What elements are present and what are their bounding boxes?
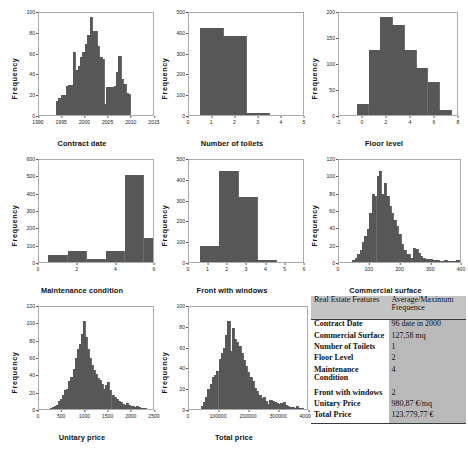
y-tick-label: 500: [177, 9, 186, 15]
x-tick-label: 4: [279, 119, 282, 125]
bars-container: [189, 13, 303, 115]
x-tick-label: 2: [233, 119, 236, 125]
x-tick-label: 3: [256, 119, 259, 125]
y-tick-label: 80: [329, 191, 335, 197]
header-value-cell: Average/Maximum Frequence: [389, 296, 467, 319]
x-axis-ticks: 0100200300400: [338, 263, 461, 275]
y-axis-ticks: 050100150200: [322, 12, 338, 116]
y-tick-label: 100: [177, 303, 186, 309]
plot-frame: [38, 306, 154, 410]
x-tick-label: 2: [225, 266, 228, 272]
chart-cell-maintenance-condition: Frequency 0100200300400500600 0246 Maint…: [8, 155, 156, 295]
histogram-bar: [48, 255, 68, 262]
y-axis-label: Frequency: [8, 155, 22, 295]
plot-frame: [338, 159, 461, 263]
chart-cell-total-price: Frequency 020406080100 01000002000003000…: [158, 302, 310, 442]
x-axis-label: Maintenance condition: [8, 286, 156, 295]
y-tick-label: 80: [29, 338, 35, 344]
y-tick-label: 0: [182, 260, 185, 266]
y-tick-label: 100: [177, 239, 186, 245]
y-tick-label: 200: [327, 9, 336, 15]
table-row: Total Price123.779,77 €: [311, 411, 466, 423]
y-axis-ticks: 020406080100: [172, 306, 188, 410]
summary-table-body: Real Estate Features Average/Maximum Fre…: [311, 296, 466, 424]
y-axis-label-text: Frequency: [11, 351, 20, 393]
feature-cell: Total Price: [311, 411, 389, 423]
x-tick-label: 100: [365, 266, 374, 272]
value-cell: 96 date in 2000: [389, 319, 467, 331]
y-tick-label: 0: [332, 260, 335, 266]
histogram-unitary-price: Frequency 020406080100120 05001000150020…: [8, 302, 156, 442]
plot-frame: [338, 12, 458, 116]
bars-container: [39, 13, 153, 115]
y-tick-label: 100: [177, 92, 186, 98]
plot-area-wrap: 020406080100 0100000200000300000400000: [172, 306, 308, 422]
y-axis-label-text: Frequency: [11, 204, 20, 246]
x-tick-label: 300000: [270, 413, 287, 419]
y-axis-label-text: Frequency: [311, 204, 320, 246]
x-tick-label: 1500: [102, 413, 113, 419]
x-axis-label: Unitary price: [8, 433, 156, 442]
y-tick-label: 40: [179, 365, 185, 371]
x-axis-label: Floor level: [308, 139, 460, 148]
y-tick-label: 0: [32, 260, 35, 266]
x-tick-label: 0: [337, 266, 340, 272]
y-tick-label: 40: [29, 372, 35, 378]
y-axis-ticks: 020406080100120: [22, 306, 38, 410]
x-tick-label: 3: [245, 266, 248, 272]
summary-table: Real Estate Features Average/Maximum Fre…: [311, 296, 466, 424]
x-axis-ticks: 0123456: [188, 263, 304, 275]
y-axis-label-text: Frequency: [11, 57, 20, 99]
y-tick-label: 300: [177, 51, 186, 57]
histogram-bar: [200, 28, 224, 115]
x-axis-label: Front with windows: [158, 286, 306, 295]
y-axis-label: Frequency: [8, 8, 22, 148]
y-axis-ticks: 020406080100120: [322, 159, 338, 263]
x-axis-ticks: 199019952000200520102015: [38, 116, 154, 128]
x-tick-label: 2000: [125, 413, 136, 419]
y-tick-label: 20: [29, 390, 35, 396]
x-axis-ticks: 0246: [38, 263, 154, 275]
y-axis-label-text: Frequency: [161, 204, 170, 246]
y-tick-label: 100: [327, 173, 336, 179]
x-axis-label: Total price: [158, 433, 310, 442]
y-tick-label: 200: [27, 225, 36, 231]
x-tick-label: 6: [433, 119, 436, 125]
y-tick-label: 80: [179, 324, 185, 330]
x-tick-label: 4: [114, 266, 117, 272]
plot-area-wrap: 050100150200 -202468: [322, 12, 458, 128]
plot-area-wrap: 0100200300400500 012345: [172, 12, 304, 128]
histogram-bar: [144, 238, 155, 262]
y-axis-label: Frequency: [158, 155, 172, 295]
histogram-front-with-windows: Frequency 0100200300400500 0123456 Front…: [158, 155, 306, 295]
plot-area-wrap: 020406080100 199019952000200520102015: [22, 12, 154, 128]
histogram-commercial-surface: Frequency 020406080100120 0100200300400 …: [308, 155, 463, 295]
histogram-bar: [246, 113, 270, 115]
x-axis-ticks: -202468: [338, 116, 458, 128]
x-tick-label: 0: [187, 413, 190, 419]
bars-container: [339, 13, 457, 115]
y-tick-label: 60: [29, 355, 35, 361]
value-cell: 127,58 mq: [389, 332, 467, 343]
y-tick-label: 0: [182, 407, 185, 413]
summary-table-container: Real Estate Features Average/Maximum Fre…: [311, 296, 466, 424]
x-tick-label: 4: [264, 266, 267, 272]
x-tick-label: 100000: [210, 413, 227, 419]
x-axis-label: Contract date: [8, 139, 156, 148]
x-axis-ticks: 012345: [188, 116, 304, 128]
y-tick-label: 50: [329, 87, 335, 93]
y-axis-ticks: 0100200300400500: [172, 159, 188, 263]
y-tick-label: 500: [27, 173, 36, 179]
y-axis-label-text: Frequency: [311, 57, 320, 99]
y-axis-label-text: Frequency: [161, 351, 170, 393]
plot-area-wrap: 020406080100120 05001000150020002500: [22, 306, 154, 422]
y-axis-label: Frequency: [8, 302, 22, 442]
value-cell: 1: [389, 343, 467, 354]
y-tick-label: 20: [29, 92, 35, 98]
bars-container: [189, 160, 303, 262]
y-tick-label: 200: [177, 71, 186, 77]
x-tick-label: 0: [187, 266, 190, 272]
x-axis-ticks: 0100000200000300000400000: [188, 410, 308, 422]
table-row: Contract Date96 date in 2000: [311, 319, 466, 331]
y-axis-label: Frequency: [308, 8, 322, 148]
